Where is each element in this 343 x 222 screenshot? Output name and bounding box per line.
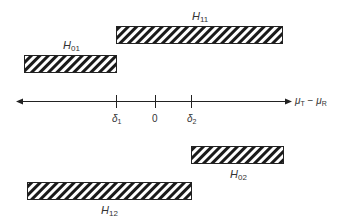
- tick-label-delta-1: δ1: [112, 114, 121, 125]
- label-h12: H12: [101, 205, 118, 218]
- label-h11: H11: [192, 11, 208, 24]
- tick-label-delta-2: δ2: [187, 114, 196, 125]
- region-h11-bar: [117, 27, 283, 44]
- region-h12-bar: [28, 183, 192, 200]
- label-h01: H01: [63, 40, 80, 53]
- axis-right-arrow-icon: [285, 99, 292, 105]
- hypothesis-diagram: [0, 0, 343, 222]
- region-h02-bar: [192, 147, 284, 164]
- label-h02: H02: [230, 169, 247, 182]
- tick-label-zero: 0: [152, 114, 158, 124]
- region-h01-bar: [25, 56, 117, 73]
- axis-label: μT − μR: [295, 96, 327, 107]
- axis-left-arrow-icon: [16, 99, 23, 105]
